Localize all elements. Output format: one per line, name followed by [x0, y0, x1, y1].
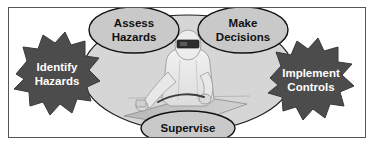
node-assess-hazards[interactable]: Assess Hazards [89, 7, 179, 53]
implement-controls-label-line1: Implement [282, 67, 340, 79]
node-supervise[interactable]: Supervise [141, 111, 235, 145]
assess-hazards-ellipse[interactable] [89, 7, 179, 53]
node-identify-hazards[interactable]: Identify Hazards [14, 32, 100, 115]
supervise-label: Supervise [161, 122, 216, 134]
assess-hazards-label-line1: Assess [114, 17, 154, 29]
diagram-canvas: Assess Hazards Make Decisions Identify H… [0, 0, 376, 156]
assess-hazards-label-line2: Hazards [112, 31, 157, 43]
risk-management-diagram: Assess Hazards Make Decisions Identify H… [0, 0, 376, 156]
node-make-decisions[interactable]: Make Decisions [198, 7, 288, 53]
implement-controls-label-line2: Controls [287, 81, 334, 93]
identify-hazards-label-line1: Identify [37, 61, 78, 73]
visor-highlight [180, 42, 187, 46]
workpiece [136, 100, 146, 107]
make-decisions-label-line1: Make [229, 17, 258, 29]
make-decisions-ellipse[interactable] [198, 7, 288, 53]
identify-hazards-label-line2: Hazards [35, 75, 80, 87]
identify-hazards-burst[interactable] [14, 32, 100, 115]
make-decisions-label-line2: Decisions [216, 31, 270, 43]
